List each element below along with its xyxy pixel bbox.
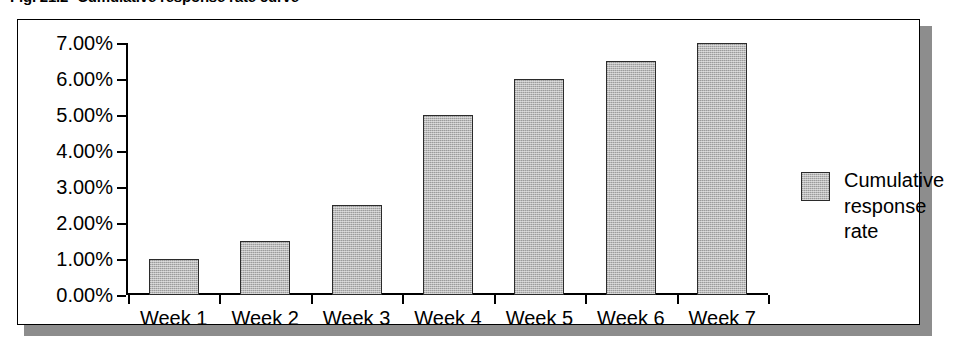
x-axis-tick-mark	[219, 295, 221, 304]
bar-week-4[interactable]	[423, 115, 473, 295]
y-axis-tick-mark	[117, 79, 126, 81]
y-axis-tick-label: 1.00%	[56, 248, 113, 271]
x-axis-tick-mark	[768, 295, 770, 304]
x-axis-label-week-1: Week 1	[140, 307, 207, 330]
y-axis-tick-mark	[117, 115, 126, 117]
x-axis-tick-mark	[311, 295, 313, 304]
x-axis-tick-mark	[677, 295, 679, 304]
x-axis-tick-mark	[402, 295, 404, 304]
x-axis-label-week-3: Week 3	[323, 307, 390, 330]
legend-label-cumulative-response-rate: Cumulative response rate	[844, 168, 944, 245]
figure-caption-number: Fig. 21.2	[10, 0, 68, 5]
x-axis-label-week-7: Week 7	[689, 307, 756, 330]
figure-caption-title: Cumulative response rate curve	[77, 0, 299, 5]
y-axis-tick-label: 7.00%	[56, 32, 113, 55]
y-axis-tick-label: 0.00%	[56, 284, 113, 307]
bar-week-7[interactable]	[697, 43, 747, 295]
plot-area: 7.00%6.00%5.00%4.00%3.00%2.00%1.00%0.00%…	[126, 43, 771, 318]
y-axis-tick-mark	[117, 295, 126, 297]
bar-week-5[interactable]	[514, 79, 564, 295]
x-axis-tick-mark	[494, 295, 496, 304]
y-axis-tick-mark	[117, 259, 126, 261]
x-axis-tick-mark	[585, 295, 587, 304]
chart-legend: Cumulative response rate	[801, 168, 944, 245]
y-axis-tick-label: 5.00%	[56, 104, 113, 127]
y-axis-tick-label: 4.00%	[56, 140, 113, 163]
bar-week-1[interactable]	[149, 259, 199, 295]
y-axis-tick-label: 3.00%	[56, 176, 113, 199]
x-axis-label-week-5: Week 5	[506, 307, 573, 330]
y-axis-tick-label: 2.00%	[56, 212, 113, 235]
legend-swatch-cumulative-response-rate	[801, 172, 830, 201]
y-axis-tick-mark	[117, 43, 126, 45]
x-axis-label-week-2: Week 2	[231, 307, 298, 330]
y-axis-tick-mark	[117, 187, 126, 189]
x-axis-label-week-6: Week 6	[597, 307, 664, 330]
bar-week-6[interactable]	[606, 61, 656, 295]
y-axis-tick-mark	[117, 223, 126, 225]
bar-week-3[interactable]	[332, 205, 382, 295]
bars-layer	[128, 43, 768, 295]
figure-caption: Fig. 21.2Cumulative response rate curve	[10, 0, 299, 5]
x-axis-tick-mark	[128, 295, 130, 304]
x-axis-label-week-4: Week 4	[414, 307, 481, 330]
y-axis-tick-mark	[117, 151, 126, 153]
chart-frame: 7.00%6.00%5.00%4.00%3.00%2.00%1.00%0.00%…	[17, 19, 920, 325]
y-axis-tick-label: 6.00%	[56, 68, 113, 91]
bar-week-2[interactable]	[240, 241, 290, 295]
